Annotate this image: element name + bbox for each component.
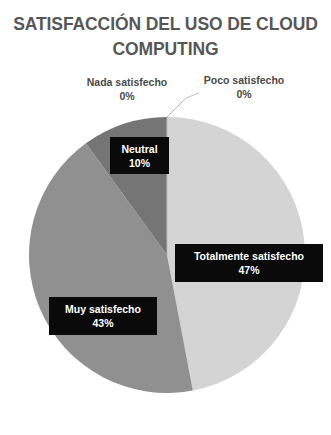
slice-label-muy-satisfecho-value: 43% xyxy=(92,316,113,330)
slice-label-muy-satisfecho-name: Muy satisfecho xyxy=(65,302,141,316)
slice-label-neutral-value: 10% xyxy=(129,156,150,170)
slice-label-poco-satisfecho: Poco satisfecho 0% xyxy=(188,74,300,101)
slice-label-neutral-name: Neutral xyxy=(121,142,157,156)
slice-label-totalmente-satisfecho-name: Totalmente satisfecho xyxy=(194,249,304,263)
slice-label-nada-satisfecho: Nada satisfecho 0% xyxy=(72,76,182,103)
pie-chart-graphic xyxy=(0,0,331,435)
slice-label-muy-satisfecho: Muy satisfecho 43% xyxy=(49,297,157,335)
slice-label-totalmente-satisfecho: Totalmente satisfecho 47% xyxy=(175,244,323,282)
pie-chart-figure: SATISFACCIÓN DEL USO DE CLOUD COMPUTING … xyxy=(0,0,331,435)
slice-label-neutral: Neutral 10% xyxy=(110,137,169,174)
slice-label-totalmente-satisfecho-value: 47% xyxy=(238,263,259,277)
